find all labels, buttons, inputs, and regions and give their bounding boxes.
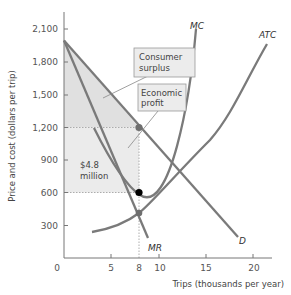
y-axis-title: Price and cost (dollars per trip)	[7, 70, 17, 202]
y-tick-2100: 2,100	[32, 24, 58, 34]
x-ticks	[111, 254, 253, 258]
atc-label: ATC	[258, 30, 277, 40]
y-tick-300: 300	[41, 221, 58, 231]
consumer-surplus-label-2: surplus	[139, 63, 170, 73]
consumer-surplus-label-1: Consumer	[139, 52, 183, 62]
monopoly-chart: 2,100 1,800 1,500 1,200 900 600 300 0 5 …	[0, 0, 291, 295]
x-tick-15: 15	[200, 263, 211, 273]
x-tick-10: 10	[154, 263, 166, 273]
economic-profit-label-1: Economic	[141, 88, 182, 98]
mr-mc-intersection-marker	[136, 210, 143, 217]
d-label: D	[239, 236, 246, 246]
y-tick-labels: 2,100 1,800 1,500 1,200 900 600 300	[32, 24, 58, 231]
y-tick-1500: 1,500	[32, 90, 58, 100]
atc-point-marker	[135, 189, 142, 196]
origin-label: 0	[54, 263, 60, 273]
profit-value-line-2: million	[80, 171, 108, 181]
x-tick-8: 8	[136, 263, 142, 273]
profit-value-line-1: $4.8	[80, 160, 99, 170]
x-tick-labels: 0 5 8 10 15 20	[54, 263, 260, 273]
x-tick-5: 5	[108, 263, 114, 273]
x-tick-20: 20	[248, 263, 260, 273]
y-tick-1800: 1,800	[32, 57, 58, 67]
mc-label: MC	[190, 21, 205, 31]
economic-profit-label-2: profit	[141, 98, 164, 108]
x-axis-title: Trips (thousands per year)	[171, 279, 284, 289]
mr-label: MR	[148, 243, 162, 253]
price-point-marker	[135, 124, 142, 131]
y-tick-900: 900	[41, 155, 58, 165]
y-tick-1200: 1,200	[32, 123, 58, 133]
y-tick-600: 600	[41, 188, 58, 198]
